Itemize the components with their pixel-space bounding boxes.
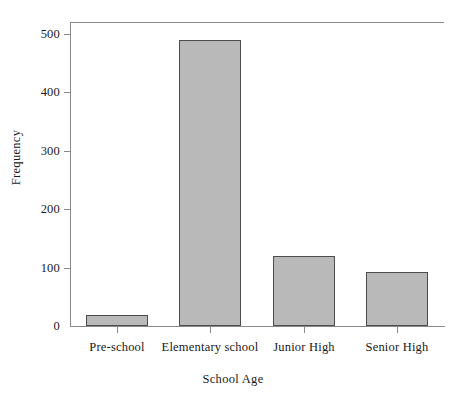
- y-axis-tick-label-slot: 100: [12, 262, 60, 274]
- y-axis-tick-label: 0: [20, 320, 60, 332]
- y-axis-tick: [64, 151, 71, 152]
- x-axis-tick: [117, 327, 118, 333]
- bar-chart-figure: Frequency School Age 0100200300400500 Pr…: [0, 0, 466, 411]
- x-axis-tick: [397, 327, 398, 333]
- x-axis-title: School Age: [0, 372, 466, 387]
- bar: [273, 256, 335, 326]
- x-axis-tick: [210, 327, 211, 333]
- y-axis-tick-label-slot: 300: [12, 145, 60, 157]
- y-axis-tick: [64, 34, 71, 35]
- y-axis-tick-label-slot: 0: [12, 320, 60, 332]
- y-axis-tick-label: 400: [20, 86, 60, 98]
- y-axis-tick-label: 300: [20, 145, 60, 157]
- bar: [179, 40, 241, 326]
- y-axis-tick-label: 500: [20, 28, 60, 40]
- x-axis-tick-label: Elementary school: [162, 340, 259, 354]
- x-axis-tick-label: Junior High: [273, 340, 335, 354]
- axis-left-spine: [70, 22, 71, 327]
- y-axis-tick-label-slot: 400: [12, 86, 60, 98]
- axis-top-spine: [70, 22, 444, 23]
- bar: [366, 272, 428, 326]
- y-axis-title: Frequency: [9, 108, 24, 208]
- y-axis-tick: [64, 92, 71, 93]
- y-axis-tick: [64, 268, 71, 269]
- y-axis-tick-label-slot: 500: [12, 28, 60, 40]
- y-axis-tick-label: 100: [20, 262, 60, 274]
- axis-bottom-spine: [70, 326, 445, 327]
- x-axis-tick-label: Senior High: [366, 340, 429, 354]
- y-axis-tick-label-slot: 200: [12, 203, 60, 215]
- bar: [86, 315, 148, 326]
- y-axis-tick: [64, 209, 71, 210]
- x-axis-tick-label: Pre-school: [89, 340, 144, 354]
- x-axis-tick: [304, 327, 305, 333]
- y-axis-tick-label: 200: [20, 203, 60, 215]
